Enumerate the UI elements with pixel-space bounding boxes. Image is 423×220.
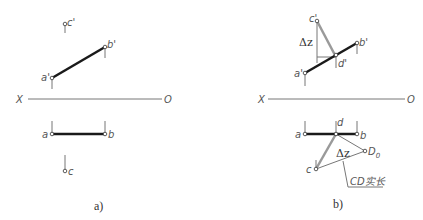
axis-o-label: O [407,94,415,105]
label-c-prime: c' [67,17,75,28]
label-a: a [42,129,48,140]
label-c: c [306,164,312,175]
true-length-label: CD实长 [350,176,386,187]
label-D0: D0 [368,146,381,160]
delta-z-label-front: Δz [299,36,313,49]
label-b-prime: b' [359,37,368,48]
projection-diagram: X O a' b' c' a b c a) X O [0,0,423,220]
point-b [103,132,107,136]
point-a-prime [50,76,54,80]
figure-b: X O c' a' b' d' Δz a b d [257,13,415,211]
label-c: c [68,166,74,177]
label-d: d [337,117,344,128]
point-d-prime [334,53,338,57]
caption-a: a) [94,199,103,213]
label-c-prime: c' [309,13,317,24]
label-b: b [108,129,114,140]
point-c [63,169,67,173]
line-cd-front [317,21,336,57]
point-d [334,132,338,136]
caption-b: b) [333,197,343,211]
point-b [355,132,359,136]
line-cd-top [316,134,336,169]
point-c [314,167,318,171]
delta-z-label-top: Δz [336,147,350,160]
label-d-prime: d' [338,58,347,69]
label-b: b [360,130,366,141]
figure-a: X O a' b' c' a b c a) [15,17,172,213]
point-a [50,132,54,136]
label-a: a [295,129,301,140]
label-a-prime: a' [294,68,303,79]
axis-x-label: X [257,94,266,105]
point-a-prime [303,71,307,75]
point-a [303,132,307,136]
axis-x-label: X [15,94,24,105]
point-D0 [363,149,367,153]
label-b-prime: b' [107,39,116,50]
axis-o-label: O [164,94,172,105]
line-ab-front [52,47,105,78]
label-a-prime: a' [41,72,50,83]
